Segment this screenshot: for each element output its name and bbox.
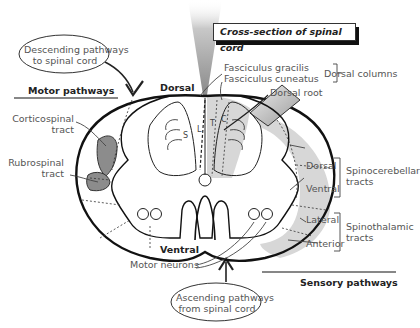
- spinothalamic-anterior-label: Anterior: [306, 238, 344, 249]
- motor-neuron-right-1: [249, 209, 260, 220]
- corticospinal-tract-shade: [97, 136, 117, 176]
- rubrospinal-line1: Rubrospinal: [4, 157, 64, 168]
- dorsal-column-shade: [207, 96, 250, 178]
- motor-pathways-label: Motor pathways: [28, 85, 114, 96]
- spinocerebellar-group-label: Spinocerebellar tracts: [346, 165, 420, 187]
- rubrospinal-label: Rubrospinal tract: [4, 157, 64, 179]
- segment-c-label: C: [221, 114, 227, 125]
- segment-t-label: T: [210, 118, 215, 129]
- corticospinal-label: Corticospinal tract: [10, 113, 74, 135]
- dorsal-columns-label: Dorsal columns: [324, 68, 397, 79]
- segment-l-label: L: [197, 124, 201, 135]
- corticospinal-line1: Corticospinal: [10, 113, 74, 124]
- descending-line1: Descending pathways: [24, 44, 106, 55]
- ascending-line2: from spinal cord: [176, 303, 258, 314]
- ascending-callout-text: Ascending pathways from spinal cord: [176, 292, 258, 314]
- spinothalamic-line1: Spinothalamic: [346, 221, 414, 232]
- motor-neuron-left-1: [138, 209, 149, 220]
- motor-neuron-right-2: [262, 209, 273, 220]
- spinocerebellar-line1: Spinocerebellar: [346, 165, 420, 176]
- dorsal-beam: [188, 0, 222, 95]
- rubrospinal-line2: tract: [4, 168, 64, 179]
- spinocerebellar-dorsal-label: Dorsal: [306, 160, 336, 171]
- dorsal-label: Dorsal: [160, 82, 194, 93]
- spinothalamic-line2: tracts: [346, 232, 414, 243]
- segment-s-label: S: [183, 130, 188, 141]
- descending-line2: to spinal cord: [24, 55, 106, 66]
- sensory-pathways-label: Sensory pathways: [300, 277, 398, 288]
- diagram-title: Cross-section of spinal cord: [213, 23, 356, 41]
- corticospinal-line2: tract: [10, 124, 74, 135]
- spinothalamic-group-label: Spinothalamic tracts: [346, 221, 414, 243]
- central-canal: [199, 174, 211, 186]
- descending-callout-text: Descending pathways to spinal cord: [24, 44, 106, 66]
- dorsal-root-label: Dorsal root: [270, 87, 323, 98]
- fasciculus-gracilis-label: Fasciculus gracilis: [224, 62, 309, 73]
- ascending-line1: Ascending pathways: [176, 292, 258, 303]
- motor-neurons-label: Motor neurons: [130, 259, 199, 270]
- spinothalamic-lateral-label: Lateral: [306, 214, 339, 225]
- ventral-label: Ventral: [160, 244, 199, 255]
- fasciculus-cuneatus-label: Fasciculus cuneatus: [224, 73, 319, 84]
- spinocerebellar-ventral-label: Ventral: [306, 183, 340, 194]
- motor-neuron-left-2: [151, 209, 162, 220]
- rubrospinal-tract-shade: [87, 172, 110, 190]
- spinocerebellar-line2: tracts: [346, 176, 420, 187]
